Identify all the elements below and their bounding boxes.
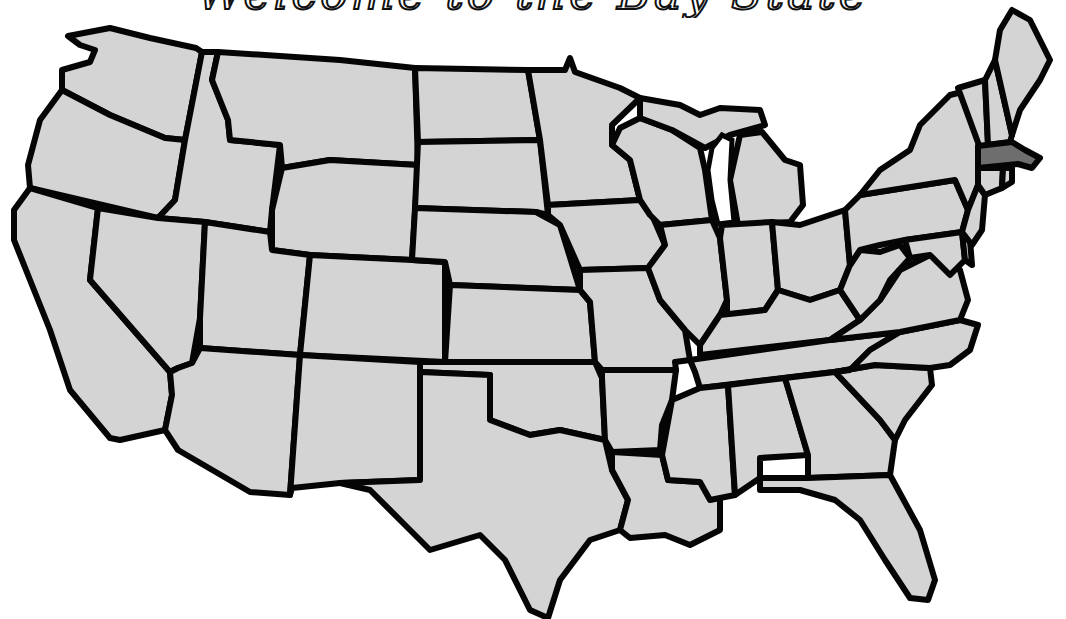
state-kansas[interactable] xyxy=(445,285,595,362)
state-michigan[interactable] xyxy=(730,132,803,225)
us-map xyxy=(0,0,1066,619)
state-florida[interactable] xyxy=(760,475,935,600)
state-arizona[interactable] xyxy=(165,348,300,495)
state-north-dakota[interactable] xyxy=(415,68,540,142)
state-mississippi[interactable] xyxy=(662,385,735,500)
state-massachusetts[interactable] xyxy=(978,142,1040,168)
state-rhode-island[interactable] xyxy=(1002,168,1012,188)
state-colorado[interactable] xyxy=(300,255,445,362)
state-south-dakota[interactable] xyxy=(415,140,548,215)
state-wyoming[interactable] xyxy=(272,160,418,260)
state-connecticut[interactable] xyxy=(978,168,1003,195)
state-new-mexico[interactable] xyxy=(290,355,420,495)
